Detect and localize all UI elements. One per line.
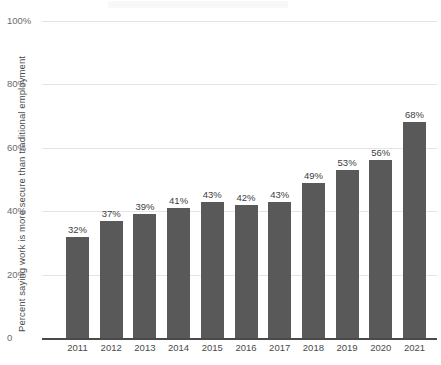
bar[interactable]: [268, 202, 291, 338]
bar-value-label: 43%: [260, 189, 300, 200]
bar-value-label: 68%: [395, 109, 435, 120]
bar[interactable]: [403, 122, 426, 338]
bar-value-label: 49%: [293, 170, 333, 181]
bar-chart: Percent saying work is more secure than …: [0, 0, 441, 365]
bar-series: 32%201137%201239%201341%201443%201542%20…: [0, 0, 441, 365]
bar[interactable]: [201, 202, 224, 338]
bar[interactable]: [302, 183, 325, 338]
bar[interactable]: [369, 160, 392, 338]
bar[interactable]: [235, 205, 258, 338]
bar-value-label: 53%: [327, 157, 367, 168]
bar[interactable]: [133, 214, 156, 338]
bar[interactable]: [66, 237, 89, 338]
bar[interactable]: [336, 170, 359, 338]
bar-value-label: 32%: [58, 224, 98, 235]
x-tick-label-2021: 2021: [395, 342, 435, 353]
bar-value-label: 56%: [361, 147, 401, 158]
bar[interactable]: [167, 208, 190, 338]
bar[interactable]: [100, 221, 123, 338]
